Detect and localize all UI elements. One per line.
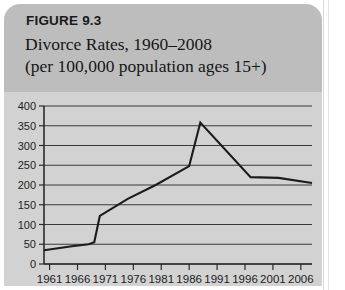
y-axis-tick-label: 350 [18, 120, 36, 132]
page-edge-rule [328, 0, 329, 290]
divorce-rate-line-series [44, 123, 312, 251]
x-axis-tick-labels: 1961196619711976198119861991199620012006 [37, 273, 314, 285]
x-axis-tick-label: 2001 [260, 273, 286, 285]
y-axis-tick-labels: 050100150200250300350400 [18, 100, 36, 270]
x-axis-tick-label: 1981 [148, 273, 174, 285]
x-axis-tick-label: 1991 [204, 273, 230, 285]
x-axis-tick-label: 1971 [93, 273, 119, 285]
y-axis-tick-label: 400 [18, 100, 36, 112]
figure-number-label: FIGURE 9.3 [26, 13, 102, 28]
figure-header-band: FIGURE 9.3 Divorce Rates, 1960–2008 (per… [4, 4, 322, 92]
figure-title-line-1: Divorce Rates, 1960–2008 [25, 34, 212, 54]
x-axis-tick-label: 1976 [121, 273, 147, 285]
y-axis-tick-label: 250 [18, 159, 36, 171]
page-edge-strip [323, 0, 345, 290]
gridlines-group [44, 106, 312, 264]
x-axis-tick-label: 1986 [176, 273, 202, 285]
y-axis-tick-label: 100 [18, 219, 36, 231]
y-axis-tick-label: 300 [18, 140, 36, 152]
y-axis-tick-label: 50 [24, 238, 36, 250]
figure-container: FIGURE 9.3 Divorce Rates, 1960–2008 (per… [0, 0, 345, 290]
x-axis-tick-label: 1966 [65, 273, 91, 285]
chart-plot-panel: 050100150200250300350400 196119661971197… [4, 92, 322, 286]
x-axis-tick-label: 2006 [288, 273, 314, 285]
x-axis-tick-label: 1996 [232, 273, 258, 285]
y-axis-tick-label: 200 [18, 179, 36, 191]
x-axis-tick-label: 1961 [37, 273, 63, 285]
figure-title: Divorce Rates, 1960–2008 (per 100,000 po… [25, 33, 317, 77]
figure-title-line-2: (per 100,000 population ages 15+) [25, 55, 317, 77]
y-axis-tick-label: 0 [30, 258, 36, 270]
y-axis-tick-label: 150 [18, 199, 36, 211]
line-chart-svg: 050100150200250300350400 196119661971197… [4, 92, 322, 286]
